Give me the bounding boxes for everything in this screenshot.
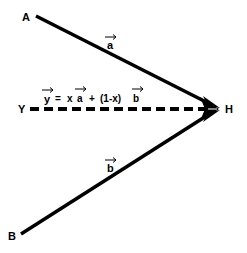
svg-text:a: a [107, 39, 114, 51]
point-label-y: Y [18, 103, 26, 115]
equation-vec-b: b [133, 93, 139, 104]
vector-diagram: A B Y H a b y = x a + (1-x) b [0, 0, 247, 253]
vector-arrow-icon [75, 87, 86, 92]
equation-label: y = x a + (1-x) b [42, 87, 143, 106]
vector-arrow-icon [132, 87, 143, 92]
equation-lhs: y [44, 93, 51, 105]
vector-b-label: b [105, 158, 116, 175]
equation-vec-a: a [77, 93, 83, 104]
vector-arrow-icon [42, 88, 53, 93]
vector-a-line [36, 16, 212, 105]
svg-text:b: b [107, 162, 114, 174]
equation-plus: + [89, 93, 95, 104]
point-label-b: B [8, 230, 16, 242]
point-label-h: H [225, 103, 233, 115]
point-label-a: A [22, 11, 30, 23]
equation-coef-2: (1-x) [100, 93, 121, 104]
vector-b-line [21, 113, 211, 234]
vector-a-label: a [105, 35, 116, 52]
equation-coef-1: x [67, 93, 73, 104]
equation-equals: = [55, 93, 61, 104]
